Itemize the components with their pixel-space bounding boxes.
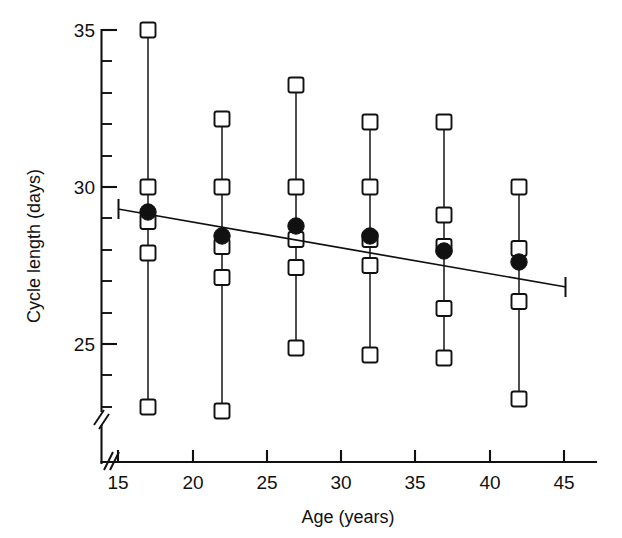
- percentile-marker[interactable]: [289, 180, 304, 195]
- cycle-length-vs-age-chart: 35 30 25 15 20 25 30 35 40 45 Age (years…: [0, 0, 622, 538]
- y-tick-label-25: 25: [74, 334, 95, 355]
- y-axis-title: Cycle length (days): [24, 169, 44, 323]
- percentile-marker[interactable]: [512, 392, 527, 407]
- percentile-marker[interactable]: [363, 180, 378, 195]
- regression-line-group: [118, 199, 566, 297]
- y-tick-labels: 35 30 25: [74, 20, 95, 355]
- figure-root: 35 30 25 15 20 25 30 35 40 45 Age (years…: [0, 0, 622, 538]
- y-tick-label-35: 35: [74, 20, 95, 41]
- x-tick-label-25: 25: [256, 472, 277, 493]
- data-column-age-27[interactable]: [288, 78, 304, 356]
- x-axis-ticks: [118, 450, 564, 462]
- percentile-marker[interactable]: [437, 351, 452, 366]
- percentile-marker[interactable]: [289, 341, 304, 356]
- percentile-marker[interactable]: [215, 270, 230, 285]
- y-axis-ticks: [102, 30, 118, 407]
- percentile-marker[interactable]: [437, 208, 452, 223]
- mean-marker[interactable]: [436, 243, 452, 259]
- mean-marker[interactable]: [362, 228, 378, 244]
- percentile-marker[interactable]: [215, 112, 230, 127]
- y-axis-break-icon: [94, 410, 109, 429]
- percentile-marker[interactable]: [141, 400, 156, 415]
- x-tick-label-30: 30: [330, 472, 351, 493]
- percentile-marker[interactable]: [289, 260, 304, 275]
- x-tick-label-15: 15: [107, 472, 128, 493]
- x-tick-label-40: 40: [479, 472, 500, 493]
- data-column-age-42[interactable]: [511, 180, 527, 407]
- mean-marker[interactable]: [511, 254, 527, 270]
- x-tick-label-35: 35: [404, 472, 425, 493]
- percentile-marker[interactable]: [363, 115, 378, 130]
- percentile-marker[interactable]: [437, 115, 452, 130]
- percentile-marker[interactable]: [141, 180, 156, 195]
- mean-marker[interactable]: [288, 218, 304, 234]
- percentile-marker[interactable]: [215, 404, 230, 419]
- x-axis-title: Age (years): [301, 507, 394, 527]
- data-column-age-17[interactable]: [140, 23, 156, 415]
- mean-marker[interactable]: [214, 228, 230, 244]
- percentile-marker[interactable]: [437, 301, 452, 316]
- data-column-age-37[interactable]: [436, 115, 452, 366]
- y-tick-label-30: 30: [74, 177, 95, 198]
- regression-line: [118, 209, 566, 287]
- percentile-marker[interactable]: [141, 23, 156, 38]
- x-tick-label-45: 45: [553, 472, 574, 493]
- mean-marker[interactable]: [140, 204, 156, 220]
- percentile-marker[interactable]: [363, 258, 378, 273]
- percentile-marker[interactable]: [512, 294, 527, 309]
- data-column-age-22[interactable]: [214, 112, 230, 419]
- percentile-marker[interactable]: [215, 180, 230, 195]
- percentile-marker[interactable]: [512, 180, 527, 195]
- data-column-age-32[interactable]: [362, 115, 378, 363]
- percentile-marker[interactable]: [141, 246, 156, 261]
- x-tick-labels: 15 20 25 30 35 40 45: [107, 472, 574, 493]
- x-tick-label-20: 20: [182, 472, 203, 493]
- percentile-marker[interactable]: [289, 78, 304, 93]
- percentile-marker[interactable]: [363, 348, 378, 363]
